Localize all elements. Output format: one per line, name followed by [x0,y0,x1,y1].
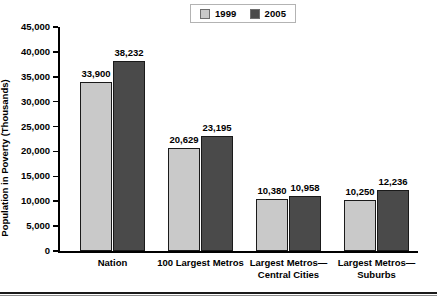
y-tick-mark [53,51,58,53]
y-tick-label: 0 [45,246,50,256]
y-tick-label: 10,000 [21,196,50,206]
category-label-1: Nation [98,257,128,269]
footer-rule-thin [0,295,437,296]
bar-1999-1 [80,82,112,251]
bar-value-label: 10,380 [257,186,286,196]
bar-2005-3 [289,196,321,251]
legend-swatch-1999 [200,9,210,19]
y-tick-mark [53,26,58,28]
legend-entry-2005: 2005 [250,9,287,19]
chart-legend: 1999 2005 [190,4,296,23]
category-label-3: Largest Metros—Central Cities [250,257,328,280]
bar-value-label: 20,629 [169,135,198,145]
y-axis-title: Population in Poverty (Thousands) [0,0,12,63]
y-tick-mark [53,101,58,103]
bar-value-label: 33,900 [81,69,110,79]
y-tick-mark [53,176,58,178]
legend-entry-1999: 1999 [200,9,237,19]
plot-area: 05,00010,00015,00020,00025,00030,00035,0… [58,27,418,253]
legend-swatch-2005 [250,9,260,19]
bar-value-label: 12,236 [378,177,407,187]
y-tick-mark [53,126,58,128]
category-label-4: Largest Metros—Suburbs [338,257,416,280]
y-tick-label: 25,000 [21,122,50,132]
y-tick-label: 45,000 [21,22,50,32]
y-tick-mark [53,250,58,252]
x-axis-line [58,251,418,253]
footer-rule [0,292,437,294]
bar-value-label: 38,232 [114,48,143,58]
y-tick-mark [53,76,58,78]
y-tick-label: 35,000 [21,72,50,82]
y-tick-label: 40,000 [21,47,50,57]
y-tick-label: 5,000 [26,221,50,231]
bar-value-label: 23,195 [202,123,231,133]
bar-value-label: 10,958 [290,183,319,193]
y-tick-label: 15,000 [21,172,50,182]
y-axis-line [58,27,60,253]
bar-2005-4 [377,190,409,251]
legend-label-1999: 1999 [215,9,237,19]
legend-label-2005: 2005 [265,9,287,19]
bar-value-label: 10,250 [345,187,374,197]
bar-2005-1 [113,61,145,251]
bar-2005-2 [201,136,233,251]
bar-1999-2 [168,148,200,251]
y-tick-mark [53,200,58,202]
poverty-bar-chart-figure: 1999 2005 Population in Poverty (Thousan… [0,0,437,306]
y-tick-label: 30,000 [21,97,50,107]
y-tick-label: 20,000 [21,147,50,157]
y-tick-mark [53,151,58,153]
bar-1999-3 [256,199,288,251]
y-tick-mark [53,225,58,227]
bar-1999-4 [344,200,376,251]
category-label-2: 100 Largest Metros [157,257,244,269]
